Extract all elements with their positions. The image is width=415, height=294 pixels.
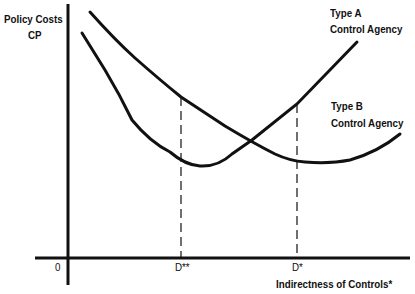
type-b-label-line2: Control Agency: [331, 116, 403, 130]
y-axis-label-line2: CP: [28, 28, 42, 42]
y-axis-label-line1: Policy Costs: [4, 12, 63, 26]
x-tick-d2: D**: [175, 261, 190, 273]
type-a-label-line1: Type A: [330, 6, 362, 20]
x-tick-d1: D*: [292, 261, 303, 273]
curve-type-a: [82, 33, 357, 166]
type-b-label-line1: Type B: [331, 99, 363, 113]
type-a-label-line2: Control Agency: [330, 22, 402, 36]
x-axis-label: Indirectness of Controls*: [276, 277, 392, 291]
origin-label: 0: [55, 261, 60, 273]
chart-canvas: [0, 0, 415, 294]
